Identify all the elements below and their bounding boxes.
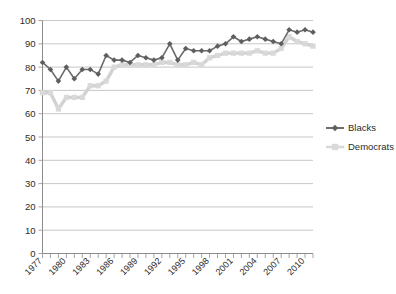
y-tick-label: 50 (25, 132, 36, 143)
x-tick-label: 1980 (47, 256, 68, 277)
data-point-democrats (247, 51, 252, 56)
data-point-democrats (175, 62, 180, 67)
data-point-democrats (310, 44, 315, 49)
data-point-democrats (263, 51, 268, 56)
x-tick-label: 1986 (94, 256, 115, 277)
legend-marker-diamond-icon (332, 125, 338, 131)
data-point-democrats (159, 60, 164, 65)
data-point-blacks (247, 36, 253, 42)
data-point-democrats (48, 90, 53, 95)
data-point-democrats (64, 95, 69, 100)
data-point-democrats (191, 60, 196, 65)
data-point-blacks (262, 36, 268, 42)
data-point-democrats (231, 51, 236, 56)
data-point-democrats (135, 62, 140, 67)
data-point-democrats (207, 55, 212, 60)
data-point-democrats (151, 62, 156, 67)
y-tick-label: 40 (25, 155, 36, 166)
data-point-democrats (104, 78, 109, 83)
data-point-blacks (119, 57, 125, 63)
data-point-democrats (302, 41, 307, 46)
data-point-democrats (88, 83, 93, 88)
data-point-blacks (191, 48, 197, 54)
data-point-blacks (143, 55, 149, 61)
x-tick-label: 2001 (214, 256, 235, 277)
x-tick-label: 1998 (190, 256, 211, 277)
data-point-democrats (96, 83, 101, 88)
data-point-democrats (215, 53, 220, 58)
x-tick-label: 1983 (70, 256, 91, 277)
x-tick-label: 1989 (118, 256, 139, 277)
data-point-democrats (239, 51, 244, 56)
x-tick-label: 2004 (237, 256, 258, 277)
chart-container: 0102030405060708090100 19771980198319861… (0, 0, 396, 294)
data-point-democrats (255, 48, 260, 53)
data-point-democrats (271, 51, 276, 56)
series-democrats (40, 34, 316, 111)
x-tick-label: 2010 (285, 256, 306, 277)
y-tick-label: 100 (20, 15, 36, 26)
data-point-democrats (287, 34, 292, 39)
data-point-democrats (183, 62, 188, 67)
data-point-democrats (80, 95, 85, 100)
data-point-democrats (279, 46, 284, 51)
y-tick-label: 90 (25, 38, 36, 49)
x-tick-label: 1977 (23, 256, 44, 277)
data-point-democrats (223, 51, 228, 56)
legend-marker-square-icon (332, 144, 338, 150)
x-axis-tick-labels: 1977198019831986198919921995199820012004… (23, 256, 307, 277)
chart-legend: BlacksDemocrats (326, 122, 394, 152)
data-point-blacks (294, 29, 300, 35)
data-point-democrats (56, 106, 61, 111)
y-tick-label: 60 (25, 108, 36, 119)
data-point-blacks (310, 29, 316, 35)
legend-item-label: Democrats (348, 141, 394, 152)
y-tick-label: 20 (25, 201, 36, 212)
data-point-democrats (143, 62, 148, 67)
data-point-democrats (112, 65, 117, 70)
x-tick-label: 1995 (166, 256, 187, 277)
data-point-blacks (199, 48, 205, 54)
y-axis-tick-labels: 0102030405060708090100 (20, 15, 36, 259)
y-tick-label: 10 (25, 225, 36, 236)
y-tick-label: 80 (25, 62, 36, 73)
data-point-democrats (294, 39, 299, 44)
data-point-blacks (255, 34, 261, 40)
line-chart: 0102030405060708090100 19771980198319861… (0, 0, 396, 294)
data-point-blacks (151, 57, 157, 63)
data-point-democrats (40, 90, 45, 95)
x-tick-label: 2007 (261, 256, 282, 277)
y-tick-label: 30 (25, 178, 36, 189)
x-tick-label: 1992 (142, 256, 163, 277)
data-point-democrats (72, 95, 77, 100)
data-point-democrats (119, 62, 124, 67)
data-point-democrats (199, 62, 204, 67)
legend-item-label: Blacks (348, 122, 376, 133)
data-point-blacks (302, 27, 308, 33)
data-point-democrats (167, 60, 172, 65)
y-tick-label: 70 (25, 85, 36, 96)
